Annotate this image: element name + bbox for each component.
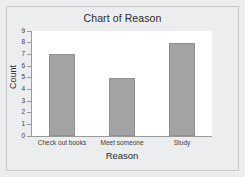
y-axis-title: Count <box>8 47 18 107</box>
y-axis-tick <box>27 66 31 67</box>
y-axis-tick <box>27 101 31 102</box>
bar <box>109 78 135 136</box>
y-axis-tick-label: 8 <box>3 39 25 46</box>
y-axis-tick <box>27 112 31 113</box>
chart-figure: Chart of Reason 9876543210 Count Check o… <box>0 0 245 177</box>
y-axis-tick-label: 1 <box>3 121 25 128</box>
x-axis-tick-label: Study <box>152 139 212 146</box>
y-axis-tick <box>27 31 31 32</box>
bar <box>169 43 195 136</box>
y-axis-line <box>31 31 32 137</box>
bar <box>49 54 75 136</box>
x-axis-tick-label: Check out books <box>32 139 92 146</box>
x-axis-title: Reason <box>32 150 212 161</box>
y-axis-tick <box>27 124 31 125</box>
y-axis-tick <box>27 136 31 137</box>
x-axis-line <box>31 136 212 137</box>
y-axis-tick-label: 2 <box>3 109 25 116</box>
chart-title: Chart of Reason <box>0 12 245 24</box>
y-axis-tick-label: 0 <box>3 133 25 140</box>
y-axis-tick <box>27 77 31 78</box>
x-axis-tick-label: Meet someone <box>92 139 152 146</box>
y-axis-tick-label: 9 <box>3 28 25 35</box>
y-axis-tick <box>27 54 31 55</box>
y-axis-tick <box>27 42 31 43</box>
y-axis-tick <box>27 89 31 90</box>
